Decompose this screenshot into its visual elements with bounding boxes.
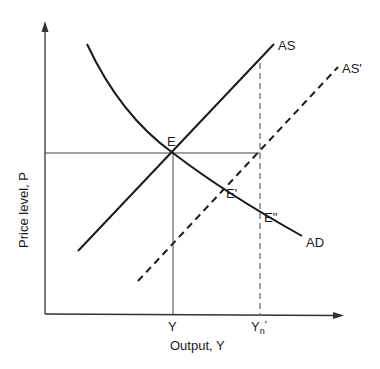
y-axis-arrow-icon [42, 21, 49, 32]
tick-yn-prime-label: Yn' [251, 319, 267, 336]
point-e-double-prime-label: E" [264, 210, 278, 225]
as-label: AS [278, 38, 296, 53]
as-curve [78, 44, 274, 251]
axes [42, 21, 345, 319]
as-prime-label: AS' [342, 61, 362, 76]
x-axis-arrow-icon [333, 312, 344, 319]
y-axis-title: Price level, P [16, 172, 31, 248]
point-e-prime-label: E' [226, 186, 237, 201]
x-axis-title: Output, Y [170, 338, 225, 353]
ad-as-diagram: AS AS' AD E E' E" Y Yn' Output, Y Price … [0, 0, 380, 369]
x-axis [45, 314, 335, 316]
ad-label: AD [306, 235, 324, 250]
point-e-label: E [167, 134, 176, 149]
tick-y-label: Y [168, 319, 177, 334]
